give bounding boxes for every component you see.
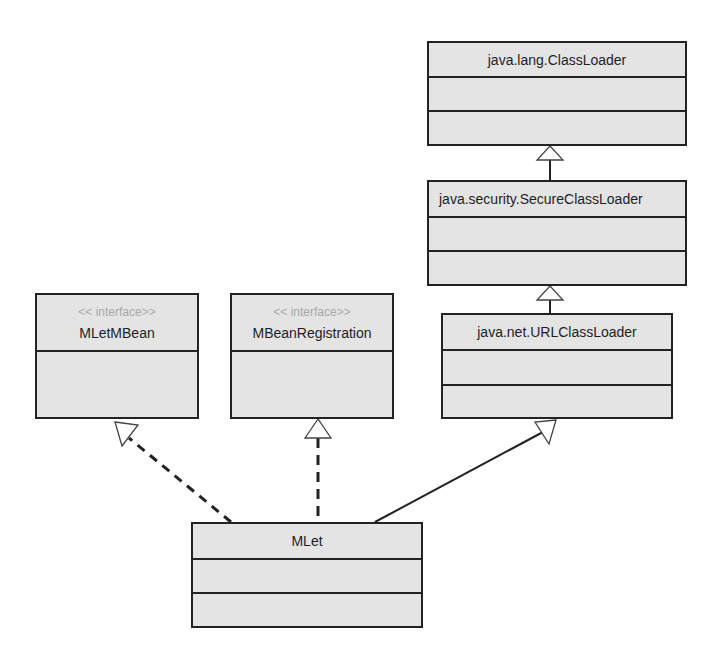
hollow-triangle-arrowhead-icon	[537, 146, 563, 160]
name-compartment: java.lang.ClassLoader	[429, 43, 685, 78]
name-compartment: java.net.URLClassLoader	[443, 315, 671, 351]
hollow-triangle-arrowhead-icon	[537, 286, 563, 300]
attributes-compartment	[429, 218, 685, 252]
operations-compartment	[429, 112, 685, 144]
generalization-secure-to-classloader	[537, 146, 563, 180]
operations-compartment	[37, 352, 197, 417]
hollow-triangle-arrowhead-icon	[115, 422, 138, 446]
generalization-url-to-secure	[537, 286, 563, 313]
class-mlet[interactable]: MLet	[191, 522, 423, 628]
class-urlclassloader[interactable]: java.net.URLClassLoader	[441, 313, 673, 419]
class-name: MLet	[291, 533, 322, 549]
realization-mlet-to-mbeanregistration	[305, 419, 331, 522]
name-compartment: << interface>> MLetMBean	[37, 295, 197, 352]
stereotype-label: << interface>>	[78, 305, 155, 319]
realization-mlet-to-mletmbean	[115, 422, 231, 522]
attributes-compartment	[443, 351, 671, 386]
class-name: java.lang.ClassLoader	[488, 52, 627, 68]
interface-mletmbean[interactable]: << interface>> MLetMBean	[35, 293, 199, 419]
name-compartment: java.security.SecureClassLoader	[429, 182, 685, 218]
class-name: MLetMBean	[79, 325, 154, 341]
hollow-triangle-arrowhead-icon	[535, 420, 556, 444]
operations-compartment	[443, 386, 671, 417]
class-name: MBeanRegistration	[252, 325, 371, 341]
class-name: java.net.URLClassLoader	[477, 324, 637, 340]
class-name: java.security.SecureClassLoader	[439, 191, 643, 207]
name-compartment: << interface>> MBeanRegistration	[232, 295, 392, 352]
attributes-compartment	[429, 78, 685, 112]
stereotype-label: << interface>>	[273, 305, 350, 319]
class-classloader[interactable]: java.lang.ClassLoader	[427, 41, 687, 146]
operations-compartment	[193, 594, 421, 626]
operations-compartment	[429, 252, 685, 284]
generalization-mlet-to-url	[375, 420, 556, 522]
operations-compartment	[232, 352, 392, 417]
attributes-compartment	[193, 560, 421, 594]
uml-diagram-canvas: java.lang.ClassLoader java.security.Secu…	[0, 0, 710, 653]
hollow-triangle-arrowhead-icon	[305, 419, 331, 438]
interface-mbeanregistration[interactable]: << interface>> MBeanRegistration	[230, 293, 394, 419]
name-compartment: MLet	[193, 524, 421, 560]
class-secureclassloader[interactable]: java.security.SecureClassLoader	[427, 180, 687, 286]
